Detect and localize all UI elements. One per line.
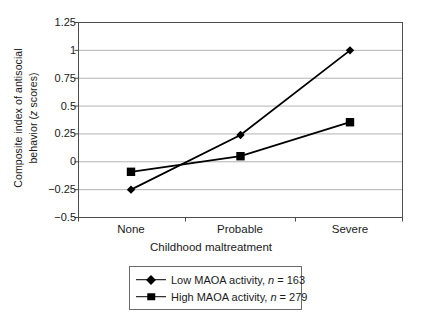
y-axis-tick-labels: 1.25 1 0.75 0.5 0.25 0 −0.25 −0.5: [30, 0, 76, 318]
legend-label-low-maoa-text: Low MAOA activity,: [171, 274, 268, 286]
y-tick-label: 0.25: [34, 128, 76, 139]
legend-label-low-maoa: Low MAOA activity, n = 163: [171, 274, 305, 286]
legend-label-high-maoa-text: High MAOA activity,: [171, 291, 270, 303]
x-axis-title: Childhood maltreatment: [0, 241, 422, 253]
y-tick-label: 0.75: [34, 72, 76, 83]
data-series: [127, 118, 354, 176]
data-point-diamond: [127, 185, 135, 193]
y-tick-label: −0.5: [34, 212, 76, 223]
data-point-square: [236, 152, 244, 160]
series-line: [131, 122, 350, 172]
x-tick-label-none: None: [117, 224, 145, 236]
diamond-marker-icon: [136, 274, 166, 286]
y-tick-label: 0.5: [34, 100, 76, 111]
legend-item-low-maoa: Low MAOA activity, n = 163: [136, 271, 295, 288]
data-series: [127, 46, 354, 194]
data-point-square: [346, 118, 354, 126]
y-axis-title-line-1: Composite index of antisocial: [13, 48, 24, 187]
y-tick-label: 1: [34, 44, 76, 55]
legend-label-low-maoa-tail: = 163: [274, 274, 305, 286]
legend-label-high-maoa: High MAOA activity, n = 279: [171, 291, 307, 303]
y-tick-label: 1.25: [34, 17, 76, 28]
chart-figure: Composite index of antisocial behavior (…: [0, 0, 422, 318]
x-tick-label-severe: Severe: [332, 224, 368, 236]
x-tick-label-probable: Probable: [217, 224, 263, 236]
y-tick-label: −0.25: [34, 184, 76, 195]
data-point-square: [127, 168, 135, 176]
square-marker-icon: [136, 291, 166, 303]
x-tick-marks: [79, 218, 403, 222]
data-series-layer: [127, 46, 354, 194]
legend: Low MAOA activity, n = 163 High MAOA act…: [129, 266, 302, 310]
y-tick-label: 0: [34, 156, 76, 167]
series-line: [131, 50, 350, 189]
legend-label-high-maoa-tail: = 279: [277, 291, 308, 303]
legend-item-high-maoa: High MAOA activity, n = 279: [136, 288, 295, 305]
